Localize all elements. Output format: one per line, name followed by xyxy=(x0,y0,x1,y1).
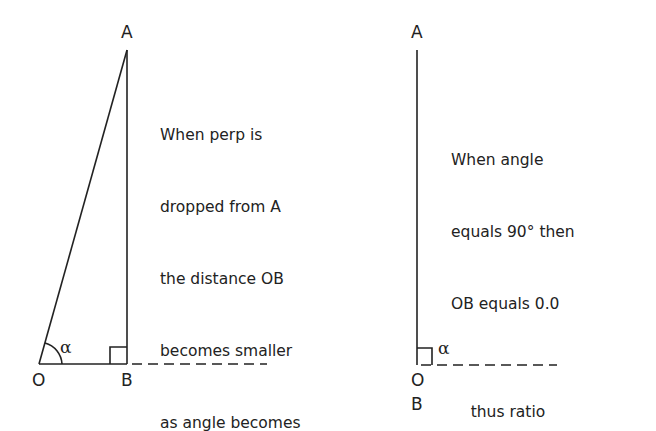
note-line: dropped from A xyxy=(160,195,301,219)
note-line: equals 90° then xyxy=(451,220,575,244)
note-line: When perp is xyxy=(160,123,301,147)
label-O-left: O xyxy=(32,372,45,389)
right-angle-marker-2 xyxy=(417,348,432,365)
hypotenuse-OA xyxy=(39,50,127,364)
ratio-prefix: thus ratio xyxy=(471,403,545,421)
note-line: OB equals 0.0 xyxy=(451,292,575,316)
right-angle-marker xyxy=(110,347,127,364)
note-line: as angle becomes xyxy=(160,411,301,431)
right-note: When angle equals 90° then OB equals 0.0… xyxy=(451,100,575,431)
note-line: When angle xyxy=(451,148,575,172)
note-line: the distance OB xyxy=(160,267,301,291)
label-A-left: A xyxy=(121,24,133,41)
left-note: When perp is dropped from A the distance… xyxy=(160,75,301,431)
label-B-right: B xyxy=(411,396,423,413)
label-alpha-right: α xyxy=(438,338,449,358)
label-O-right: O xyxy=(411,372,424,389)
note-line: becomes smaller xyxy=(160,339,301,363)
ratio-line: thus ratio OB OA = 0.0 xyxy=(451,364,575,431)
label-alpha-left: α xyxy=(60,337,71,357)
label-A-right: A xyxy=(411,24,423,41)
label-B-left: B xyxy=(121,372,133,389)
